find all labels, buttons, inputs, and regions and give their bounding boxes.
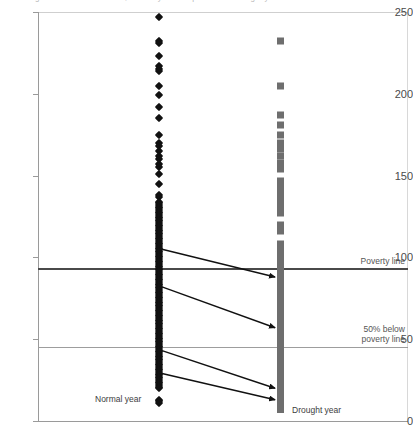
arrow-3 [162, 351, 275, 389]
chart-canvas: Figure: household income, normal year co… [0, 0, 413, 436]
arrow-4 [162, 374, 275, 400]
arrow-2 [162, 287, 275, 328]
arrow-1 [162, 249, 275, 277]
transition-arrows [0, 0, 413, 436]
drought-year-legend-swatch [277, 406, 284, 413]
series-label-normal-year: Normal year [95, 394, 141, 404]
series-label-drought-year: Drought year [292, 405, 341, 415]
